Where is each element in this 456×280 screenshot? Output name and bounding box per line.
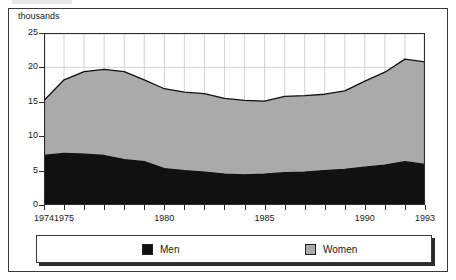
y-axis-unit-label: thousands [18,11,60,22]
x-tick-label: 1985 [255,214,275,223]
x-tick-label: 1975 [54,214,74,223]
scan-artifact [12,0,72,4]
y-tick-label: 0 [6,200,38,209]
x-tick-mark [285,205,286,210]
x-tick-label: 1980 [154,214,174,223]
x-tick-mark [184,205,185,210]
x-tick-mark [325,205,326,210]
legend-entry-women: Women [305,243,357,256]
legend-entry-men: Men [142,243,179,256]
y-tick-label: 20 [6,62,38,71]
x-tick-mark [64,205,65,210]
x-tick-label: 1990 [355,214,375,223]
x-tick-mark [265,205,266,210]
x-tick-mark [164,205,165,210]
x-tick-mark [425,205,426,210]
x-tick-mark [204,205,205,210]
stacked-area-plot [44,33,425,205]
legend: Men Women [36,235,432,263]
legend-label-women: Women [323,244,357,255]
legend-swatch-men [142,244,153,255]
x-tick-mark [124,205,125,210]
x-tick-mark [144,205,145,210]
x-tick-label: 1974 [34,214,54,223]
y-tick-mark [39,33,44,34]
x-tick-mark [104,205,105,210]
y-tick-label: 25 [6,28,38,37]
x-tick-mark [365,205,366,210]
chart-figure: thousands 0510152025 1974197519801985199… [0,0,456,280]
x-tick-mark [84,205,85,210]
legend-swatch-women [305,244,316,255]
y-tick-mark [39,171,44,172]
x-tick-mark [44,205,45,210]
x-tick-label: 1993 [415,214,435,223]
x-tick-mark [305,205,306,210]
legend-label-men: Men [160,244,179,255]
x-tick-mark [345,205,346,210]
y-tick-mark [39,102,44,103]
x-tick-mark [385,205,386,210]
y-tick-mark [39,67,44,68]
x-tick-mark [245,205,246,210]
y-tick-label: 5 [6,166,38,175]
plot-area [44,33,425,205]
x-tick-mark [224,205,225,210]
y-tick-label: 10 [6,131,38,140]
x-tick-mark [405,205,406,210]
y-tick-mark [39,136,44,137]
y-tick-label: 15 [6,97,38,106]
